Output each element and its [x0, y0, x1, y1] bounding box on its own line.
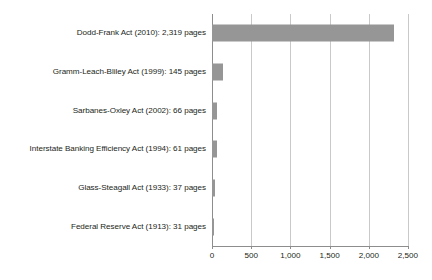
bar-category-label: Dodd-Frank Act (2010): 2,319 pages: [77, 28, 206, 38]
bar: [212, 25, 394, 42]
bar: [212, 179, 215, 196]
bar-chart: Dodd-Frank Act (2010): 2,319 pagesGramm-…: [0, 0, 432, 280]
bar: [212, 218, 214, 235]
bar-category-label: Federal Reserve Act (1913): 31 pages: [71, 222, 206, 232]
bar-row: Sarbanes-Oxley Act (2002): 66 pages: [0, 91, 432, 130]
bar-row: Federal Reserve Act (1913): 31 pages: [0, 207, 432, 246]
x-tick-label: 500: [244, 250, 258, 261]
bar: [212, 141, 217, 158]
bar-row: Glass-Steagall Act (1933): 37 pages: [0, 169, 432, 208]
x-tick-mark: [290, 246, 291, 249]
bar-row: Gramm-Leach-Bliley Act (1999): 145 pages: [0, 53, 432, 92]
bar-row: Interstate Banking Efficiency Act (1994)…: [0, 130, 432, 169]
x-tick-mark: [212, 246, 213, 249]
x-tick-label: 0: [210, 250, 215, 261]
x-tick-mark: [408, 246, 409, 249]
bar-rows: Dodd-Frank Act (2010): 2,319 pagesGramm-…: [0, 14, 432, 246]
bar-row: Dodd-Frank Act (2010): 2,319 pages: [0, 14, 432, 53]
bar-category-label: Glass-Steagall Act (1933): 37 pages: [78, 183, 206, 193]
x-axis-tick-labels: 05001,0001,5002,0002,500: [0, 250, 432, 264]
bar-category-label: Sarbanes-Oxley Act (2002): 66 pages: [73, 106, 206, 116]
x-tick-label: 2,500: [398, 250, 418, 261]
x-axis-baseline: [212, 246, 409, 247]
x-tick-label: 1,500: [319, 250, 339, 261]
x-tick-mark: [330, 246, 331, 249]
x-tick-mark: [251, 246, 252, 249]
x-tick-label: 1,000: [280, 250, 300, 261]
x-tick-label: 2,000: [359, 250, 379, 261]
bar: [212, 102, 217, 119]
x-tick-mark: [369, 246, 370, 249]
bar: [212, 63, 223, 80]
bar-category-label: Gramm-Leach-Bliley Act (1999): 145 pages: [53, 67, 206, 77]
bar-category-label: Interstate Banking Efficiency Act (1994)…: [30, 144, 206, 154]
